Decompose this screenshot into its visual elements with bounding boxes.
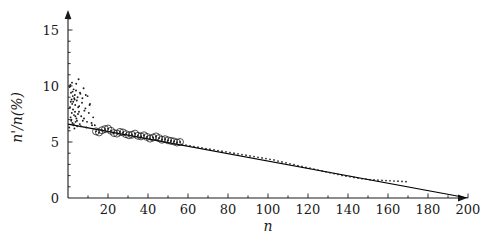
data-point-dot: [373, 179, 375, 181]
fit-line: [68, 124, 468, 198]
data-point-dot: [72, 109, 74, 111]
data-point-dot: [313, 168, 315, 170]
data-point-dot: [209, 148, 211, 150]
data-point-dot: [365, 178, 367, 180]
data-point-dot: [269, 158, 271, 160]
y-axis-tick-label: 15: [42, 23, 59, 38]
y-axis-title: n'/n(%): [9, 92, 25, 143]
data-point-dot: [87, 95, 89, 97]
data-point-dot: [70, 92, 72, 94]
dotted-trail: [181, 144, 407, 183]
x-axis-tick-label: 120: [296, 202, 321, 217]
x-axis-tick-label: 20: [100, 202, 117, 217]
data-point-dot: [83, 110, 85, 112]
data-point-dot: [72, 101, 74, 103]
data-point-dot: [91, 124, 93, 126]
data-point-dot: [94, 124, 96, 126]
x-axis-tick-label: 200: [456, 202, 481, 217]
data-point-dot: [405, 181, 407, 183]
data-point-dot: [225, 151, 227, 153]
data-point-dot: [74, 115, 76, 117]
chart-figure: 20406080100120140160180200051015nn'/n(%): [0, 0, 490, 245]
data-point-dot: [281, 161, 283, 163]
data-point-dot: [345, 175, 347, 177]
data-point-dot: [233, 152, 235, 154]
x-axis-tick-label: 60: [180, 202, 197, 217]
data-point-dot: [305, 166, 307, 168]
data-point-dot: [81, 102, 83, 104]
x-axis-tick-label: 100: [256, 202, 281, 217]
data-point-dot: [357, 177, 359, 179]
data-point-dot: [79, 92, 81, 94]
data-point-dot: [76, 100, 78, 102]
data-point-dot: [401, 181, 403, 183]
data-point-dot: [337, 174, 339, 176]
data-point-dot: [85, 94, 87, 96]
data-point-dot: [72, 91, 74, 93]
data-point-dot: [74, 94, 76, 96]
data-point-dot: [83, 118, 85, 120]
data-point-dot: [75, 118, 77, 120]
data-point-dot: [253, 156, 255, 158]
x-axis-tick-label: 160: [376, 202, 401, 217]
data-point-dot: [77, 96, 79, 98]
data-point-dot: [261, 157, 263, 159]
data-point-dot: [82, 120, 84, 122]
data-point-dot: [333, 173, 335, 175]
data-point-dot: [361, 178, 363, 180]
x-axis-tick-label: 40: [140, 202, 157, 217]
x-axis-title: n: [263, 218, 272, 234]
data-point-dot: [80, 125, 82, 127]
circled-markers: [93, 125, 184, 146]
data-point-dot: [73, 88, 75, 90]
data-point-dot: [205, 148, 207, 150]
data-point-dot: [381, 179, 383, 181]
data-point-dot: [69, 106, 71, 108]
data-point-dot: [70, 101, 72, 103]
data-point-dot: [89, 104, 91, 106]
data-point-dot: [349, 176, 351, 178]
data-point-dot: [301, 166, 303, 168]
data-point-dot: [71, 103, 73, 105]
data-point-dot: [289, 163, 291, 165]
data-point-dot: [69, 85, 71, 87]
data-point-dot: [393, 180, 395, 182]
data-point-dot: [74, 104, 76, 106]
data-point-dot: [68, 126, 70, 128]
marker-center-dot: [179, 141, 181, 143]
y-axis-arrowhead: [65, 10, 72, 19]
data-point-dot: [76, 120, 78, 122]
data-point-dot: [77, 106, 79, 108]
data-point-dot: [72, 95, 74, 97]
data-point-dot: [79, 123, 81, 125]
x-axis-tick-label: 140: [336, 202, 361, 217]
data-point-dot: [193, 146, 195, 148]
data-point-dot: [317, 169, 319, 171]
data-point-dot: [71, 82, 73, 84]
data-point-dot: [377, 179, 379, 181]
data-point-dot: [353, 177, 355, 179]
data-point-dot: [229, 152, 231, 154]
data-point-dot: [91, 122, 93, 124]
data-point-dot: [249, 155, 251, 157]
data-point-dot: [265, 158, 267, 160]
data-point-dot: [217, 150, 219, 152]
data-point-dot: [277, 160, 279, 162]
data-point-dot: [213, 149, 215, 151]
data-point-dot: [85, 126, 87, 128]
data-point-dot: [84, 107, 86, 109]
data-point-dot: [80, 115, 82, 117]
data-point-dot: [369, 179, 371, 181]
data-point-dot: [241, 154, 243, 156]
data-point-dot: [71, 112, 73, 114]
data-point-dot: [189, 145, 191, 147]
data-point-dot: [88, 112, 90, 114]
data-point-dot: [92, 116, 94, 118]
data-point-dot: [70, 119, 72, 121]
data-point-dot: [74, 98, 76, 100]
data-point-dot: [397, 180, 399, 182]
data-point-dot: [321, 170, 323, 172]
data-point-dot: [81, 97, 83, 99]
y-axis-tick-label: 5: [51, 135, 59, 150]
data-point-dot: [71, 98, 73, 100]
